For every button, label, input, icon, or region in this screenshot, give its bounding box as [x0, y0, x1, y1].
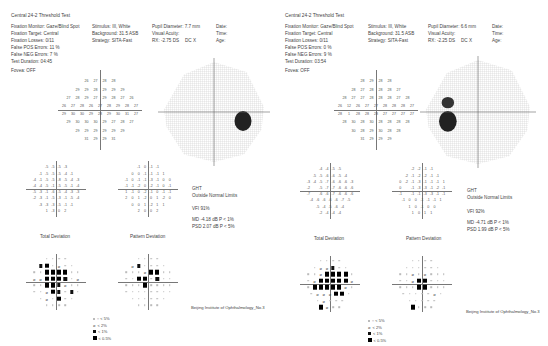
pattern-deviation-value: 0 — [144, 209, 146, 213]
fixation-losses: Fixation Losses: 0/11 — [11, 38, 54, 43]
age: Age: — [216, 38, 225, 43]
prob-lt-0.5-icon — [411, 305, 415, 310]
threshold-value: 27 — [410, 104, 414, 108]
date: Date: — [492, 24, 503, 29]
total-deviation-value: -7 — [331, 192, 334, 196]
prob-lt-0.5-icon — [331, 278, 335, 283]
prob-lt-2-icon: ø — [143, 271, 146, 274]
ght-label: GHT — [192, 186, 202, 191]
total-deviation-value: -6 — [338, 186, 341, 190]
pattern-deviation-value: -2 — [405, 174, 408, 178]
pattern-deviation-value: -1 — [430, 167, 433, 171]
total-deviation-value: -7 — [325, 180, 328, 184]
prob-lt-0.5-icon — [337, 272, 341, 277]
pattern-deviation-value: 2 — [125, 196, 127, 200]
pattern-deviation-value: -3 — [423, 186, 426, 190]
total-deviation-value: -5 — [45, 178, 48, 182]
pattern-deviation-value: -1 — [436, 192, 439, 196]
total-deviation-value: -4 — [64, 190, 67, 194]
prob-lt-5-icon — [52, 304, 54, 306]
pattern-deviation-value: -1 — [156, 165, 159, 169]
pattern-deviation-value: -2 — [137, 184, 140, 188]
threshold-value: 30 — [85, 120, 89, 124]
prob-lt-5-icon — [93, 318, 95, 320]
total-probability-vertical-axis — [330, 256, 331, 312]
threshold-value: 27 — [71, 104, 75, 108]
total-deviation-value: -6 — [325, 174, 328, 178]
pattern-deviation-value: -1 — [402, 198, 405, 202]
threshold-value: 31 — [112, 137, 116, 141]
threshold-value: 1 — [348, 112, 350, 116]
prob-lt-5-icon — [443, 273, 445, 275]
pattern-deviation-value: -1 — [137, 165, 140, 169]
pattern-deviation-value: -1 — [411, 192, 414, 196]
prob-lt-1-icon — [93, 330, 96, 334]
total-deviation-value: -4 — [325, 167, 328, 171]
prob-lt-5-icon — [77, 285, 79, 287]
total-deviation-value: -3 — [76, 190, 79, 194]
total-deviation-value: -6 — [335, 198, 338, 202]
prob-lt-2-icon: ø — [329, 292, 332, 295]
prob-lt-5-icon — [335, 300, 337, 302]
total-deviation-value: -5 — [64, 184, 67, 188]
threshold-value: 28 — [365, 112, 369, 116]
total-deviation-value: -6 — [325, 192, 328, 196]
test-title: Central 24-2 Threshold Test — [285, 13, 344, 18]
threshold-value: 27 — [397, 88, 401, 92]
prob-lt-5-icon — [138, 291, 140, 293]
threshold-value: 27 — [134, 112, 138, 116]
prob-lt-5-icon — [71, 278, 73, 280]
pattern-deviation-value: -1 — [423, 180, 426, 184]
rx: RX: -2.75 DS — [152, 38, 179, 43]
pattern-deviation-value: 0 — [169, 196, 171, 200]
prob-lt-5-icon — [34, 271, 36, 273]
total-deviation-value: -5 — [57, 172, 60, 176]
threshold-value: 12 — [347, 104, 351, 108]
false-pos-errors: False POS Errors: 0 % — [285, 45, 331, 50]
prob-lt-0.5-icon — [45, 283, 49, 288]
total-deviation-value: -4 — [322, 205, 325, 209]
stimulus: Stimulus: III, White — [92, 24, 130, 29]
pattern-deviation-value: -2 — [405, 180, 408, 184]
prob-lt-2-icon: ø — [131, 264, 134, 267]
threshold-value: 30 — [116, 112, 120, 116]
prob-lt-5-icon — [317, 300, 319, 302]
total-deviation-value: -5 — [316, 205, 319, 209]
prob-lt-5-icon — [339, 306, 341, 308]
threshold-value: 27 — [361, 88, 365, 92]
total-deviation-value: -1 — [51, 184, 54, 188]
grayscale-plot-svg — [154, 57, 274, 167]
prob-lt-5-icon — [169, 285, 171, 287]
prob-lt-0.5-icon — [155, 270, 159, 275]
pattern-deviation-vertical-axis — [422, 163, 423, 219]
pattern-deviation-value: -2 — [149, 203, 152, 207]
threshold-value: 29 — [85, 129, 89, 133]
prob-lt-2-icon: ø — [322, 299, 325, 302]
legend-label: < 0.5% — [374, 338, 387, 343]
pattern-deviation-value: -1 — [149, 172, 152, 176]
pattern-deviation-value: 0 — [138, 190, 140, 194]
prob-lt-2-icon: ø — [64, 284, 67, 287]
prob-lt-2-icon: ø — [424, 273, 427, 276]
prob-lt-5-icon — [424, 306, 426, 308]
pattern-deviation-value: -1 — [125, 178, 128, 182]
total-deviation-value: -5 — [45, 165, 48, 169]
prob-lt-0.5-icon — [143, 283, 147, 288]
prob-lt-5-icon — [406, 287, 408, 289]
prob-lt-5-icon — [332, 306, 334, 308]
prob-lt-0.5-icon — [417, 285, 421, 290]
prob-lt-5-icon — [437, 280, 439, 282]
pattern-deviation-value: -1 — [168, 190, 171, 194]
fovea: Fovea: OFF — [11, 68, 36, 73]
visual-acuity: Visual Acuity: — [152, 31, 179, 36]
total-deviation-value: -4 — [33, 184, 36, 188]
threshold-value: 29 — [76, 129, 80, 133]
threshold-value: 29 — [379, 137, 383, 141]
prob-lt-5-icon — [314, 273, 316, 275]
total-deviation-value: -4 — [325, 211, 328, 215]
pattern-deviation-value: 1 — [156, 196, 158, 200]
threshold-value: 27 — [374, 104, 378, 108]
prob-lt-5-icon — [126, 285, 128, 287]
pattern-deviation-value: -1 — [411, 186, 414, 190]
threshold-value: 28 — [112, 96, 116, 100]
